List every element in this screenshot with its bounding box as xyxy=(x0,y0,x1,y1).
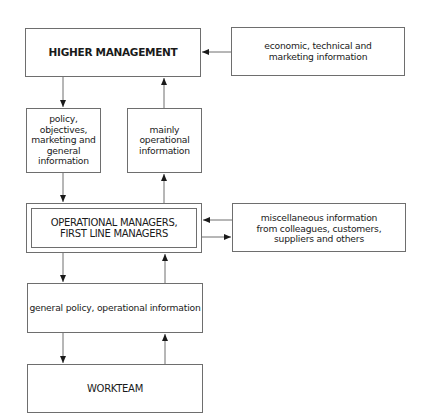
misc-info-box: miscellaneous information from colleague… xyxy=(232,203,406,252)
operational-info-box: mainly operational information xyxy=(127,108,202,173)
external-info-box: economic, technical and marketing inform… xyxy=(231,27,405,76)
operational-managers-inner-border: OPERATIONAL MANAGERS, FIRST LINE MANAGER… xyxy=(31,208,197,248)
general-policy-box: general policy, operational information xyxy=(27,283,203,333)
workteam-box: WORKTEAM xyxy=(27,364,203,413)
operational-info-label: mainly operational information xyxy=(139,125,190,157)
workteam-label: WORKTEAM xyxy=(87,383,143,395)
misc-info-label: miscellaneous information from colleague… xyxy=(257,213,382,245)
operational-managers-label: OPERATIONAL MANAGERS, FIRST LINE MANAGER… xyxy=(51,217,178,240)
external-info-label: economic, technical and marketing inform… xyxy=(264,41,372,62)
higher-management-label: HIGHER MANAGEMENT xyxy=(49,47,178,58)
higher-management-box: HIGHER MANAGEMENT xyxy=(25,28,201,77)
policy-info-box: policy, objectives, marketing and genera… xyxy=(26,108,101,173)
operational-managers-box: OPERATIONAL MANAGERS, FIRST LINE MANAGER… xyxy=(26,203,202,253)
general-policy-label: general policy, operational information xyxy=(29,303,200,314)
policy-info-label: policy, objectives, marketing and genera… xyxy=(31,114,95,167)
